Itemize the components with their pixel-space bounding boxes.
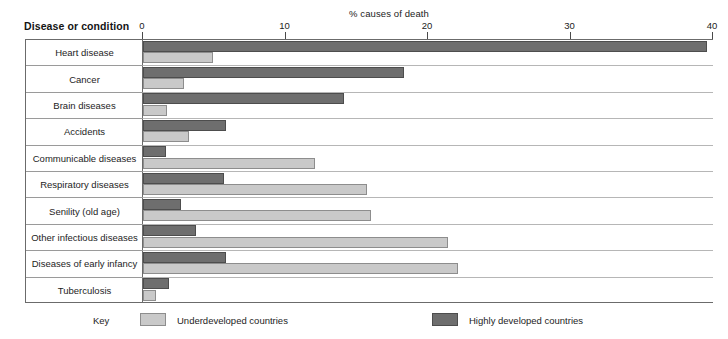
x-tick-label-40: 40 [707, 20, 718, 31]
x-tick-mark-20 [427, 32, 428, 39]
bar-highly-developed-8 [143, 225, 196, 236]
legend-swatch-highly-developed [432, 313, 458, 326]
x-tick-mark-0 [142, 32, 143, 39]
x-tick-label-10: 10 [279, 20, 290, 31]
category-label-9: Diseases of early infancy [26, 251, 143, 277]
legend-swatch-underdeveloped [140, 313, 166, 326]
x-axis-title: % causes of death [349, 8, 429, 19]
x-tick-label-0: 0 [139, 20, 144, 31]
row-separator [143, 250, 713, 251]
bar-highly-developed-3 [143, 93, 344, 104]
bar-underdeveloped-8 [143, 237, 448, 248]
bar-highly-developed-1 [143, 41, 707, 52]
category-label-column: Heart diseaseCancerBrain diseasesAcciden… [25, 39, 142, 303]
y-axis-title: Disease or condition [24, 20, 129, 32]
row-separator [143, 224, 713, 225]
legend-label-underdeveloped: Underdeveloped countries [177, 315, 288, 326]
category-label-10: Tuberculosis [26, 278, 143, 304]
category-label-3: Brain diseases [26, 93, 143, 119]
bar-underdeveloped-1 [143, 52, 213, 63]
row-separator [143, 171, 713, 172]
bar-highly-developed-7 [143, 199, 181, 210]
category-label-6: Respiratory diseases [26, 172, 143, 198]
row-separator [143, 277, 713, 278]
bar-highly-developed-5 [143, 146, 166, 157]
category-label-8: Other infectious diseases [26, 225, 143, 251]
bar-highly-developed-9 [143, 252, 226, 263]
plot-area: Heart diseaseCancerBrain diseasesAcciden… [25, 39, 712, 303]
category-label-7: Senility (old age) [26, 198, 143, 224]
bar-highly-developed-2 [143, 67, 404, 78]
bar-underdeveloped-7 [143, 210, 371, 221]
bar-underdeveloped-10 [143, 290, 156, 301]
x-tick-label-20: 20 [422, 20, 433, 31]
x-tick-mark-10 [285, 32, 286, 39]
category-label-2: Cancer [26, 66, 143, 92]
row-separator [143, 145, 713, 146]
bar-underdeveloped-4 [143, 131, 189, 142]
x-tick-mark-30 [570, 32, 571, 39]
category-label-5: Communicable diseases [26, 146, 143, 172]
plot-bottom-border [142, 302, 713, 303]
bar-underdeveloped-2 [143, 78, 184, 89]
bars-area [142, 39, 712, 303]
bar-highly-developed-10 [143, 278, 169, 289]
legend: Key Underdeveloped countries Highly deve… [0, 311, 728, 333]
bar-chart: Disease or condition % causes of death 0… [0, 0, 728, 339]
bar-underdeveloped-3 [143, 105, 167, 116]
plot-top-border [142, 39, 713, 40]
bar-underdeveloped-5 [143, 158, 315, 169]
row-separator [143, 118, 713, 119]
row-separator [143, 92, 713, 93]
row-separator [143, 197, 713, 198]
bar-underdeveloped-9 [143, 263, 458, 274]
legend-label-highly-developed: Highly developed countries [469, 315, 583, 326]
bar-underdeveloped-6 [143, 184, 367, 195]
category-label-4: Accidents [26, 119, 143, 145]
bar-highly-developed-6 [143, 173, 224, 184]
category-label-1: Heart disease [26, 40, 143, 66]
legend-key-label: Key [93, 315, 109, 326]
bar-highly-developed-4 [143, 120, 226, 131]
x-tick-label-30: 30 [564, 20, 575, 31]
x-tick-mark-40 [712, 32, 713, 39]
row-separator [143, 65, 713, 66]
